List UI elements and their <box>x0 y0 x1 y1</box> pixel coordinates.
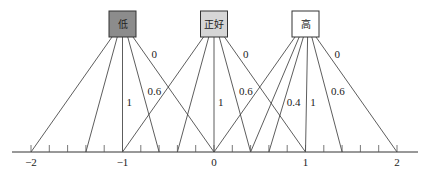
edge-line <box>306 37 308 152</box>
axis-tick-label: 0 <box>211 156 217 168</box>
node-high: 高 <box>292 11 319 37</box>
edge-line <box>177 37 208 152</box>
edge-weight-label: 0.6 <box>147 85 161 97</box>
edge-line <box>316 37 397 152</box>
number-axis: −2−1012 <box>12 145 418 168</box>
edge-weight-label: 1 <box>310 96 316 108</box>
membership-diagram: 10.6010.600.410.60 −2−1012 低正好高 <box>0 0 425 180</box>
axis-tick-label: −1 <box>117 156 129 168</box>
edge-weight-label: 0 <box>152 48 158 60</box>
edge-line <box>123 37 204 152</box>
edge-weight-label: 1 <box>218 96 224 108</box>
edge-weight-label: 0.6 <box>239 85 253 97</box>
edge-line <box>269 37 304 152</box>
node-just_right: 正好 <box>201 11 228 37</box>
node-label: 高 <box>301 18 311 30</box>
node-label: 正好 <box>204 19 224 30</box>
axis-tick-label: −2 <box>25 156 37 168</box>
edges: 10.6010.600.410.60 <box>31 37 397 152</box>
edge-weight-label: 0.4 <box>287 96 301 108</box>
edge-weight-label: 0.6 <box>331 85 345 97</box>
edge-line <box>31 37 112 152</box>
edge-line <box>133 37 214 152</box>
edge-weight-label: 1 <box>127 96 133 108</box>
edge-weight-label: 0 <box>243 48 249 60</box>
edge-line <box>251 37 300 152</box>
edge-line <box>214 37 295 152</box>
edge-weight-label: 0 <box>335 48 341 60</box>
nodes: 低正好高 <box>109 11 319 37</box>
edge-line <box>225 37 306 152</box>
axis-tick-label: 2 <box>394 156 400 168</box>
node-low: 低 <box>109 11 136 37</box>
node-label: 低 <box>118 18 128 30</box>
edge-line <box>86 37 117 152</box>
axis-tick-label: 1 <box>303 156 309 168</box>
